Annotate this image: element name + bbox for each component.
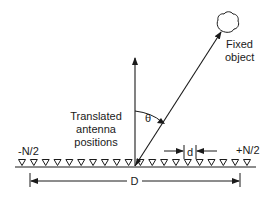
antenna-triangle-icon bbox=[101, 160, 108, 166]
left-end-label: -N/2 bbox=[18, 145, 39, 157]
antenna-triangle-icon bbox=[42, 160, 49, 166]
translated-label-line3: positions bbox=[74, 136, 118, 148]
antenna-triangle-icon bbox=[161, 160, 168, 166]
fixed-object-label-line1: Fixed bbox=[226, 38, 253, 50]
right-end-label: +N/2 bbox=[236, 144, 260, 156]
antenna-triangle-icon bbox=[66, 160, 73, 166]
synthetic-aperture-diagram: θ Fixed object Translated antenna positi… bbox=[0, 0, 276, 200]
fixed-object-label-line2: object bbox=[225, 51, 254, 63]
antenna-triangle-icon bbox=[184, 160, 191, 166]
antenna-triangle-icon bbox=[208, 160, 215, 166]
antenna-triangle-icon bbox=[19, 160, 26, 166]
antenna-triangle-icon bbox=[90, 160, 97, 166]
antenna-triangle-icon bbox=[113, 160, 120, 166]
antenna-triangle-icon bbox=[244, 160, 251, 166]
antenna-triangle-icon bbox=[232, 160, 239, 166]
translated-label-line2: antenna bbox=[76, 123, 117, 135]
spacing-label: d bbox=[187, 146, 193, 158]
antenna-triangle-icon bbox=[149, 160, 156, 166]
aperture-label: D bbox=[131, 175, 139, 187]
antenna-triangle-icon bbox=[220, 160, 227, 166]
antenna-triangle-icon bbox=[125, 160, 132, 166]
theta-label: θ bbox=[145, 112, 151, 124]
antenna-triangle-icon bbox=[172, 160, 179, 166]
antenna-triangle-icon bbox=[30, 160, 37, 166]
antenna-triangle-icon bbox=[54, 160, 61, 166]
antenna-triangle-icon bbox=[78, 160, 85, 166]
translated-label-line1: Translated bbox=[70, 110, 122, 122]
fixed-object-icon bbox=[217, 12, 238, 33]
line-of-sight-arrow bbox=[135, 32, 221, 166]
antenna-triangle-icon bbox=[196, 160, 203, 166]
